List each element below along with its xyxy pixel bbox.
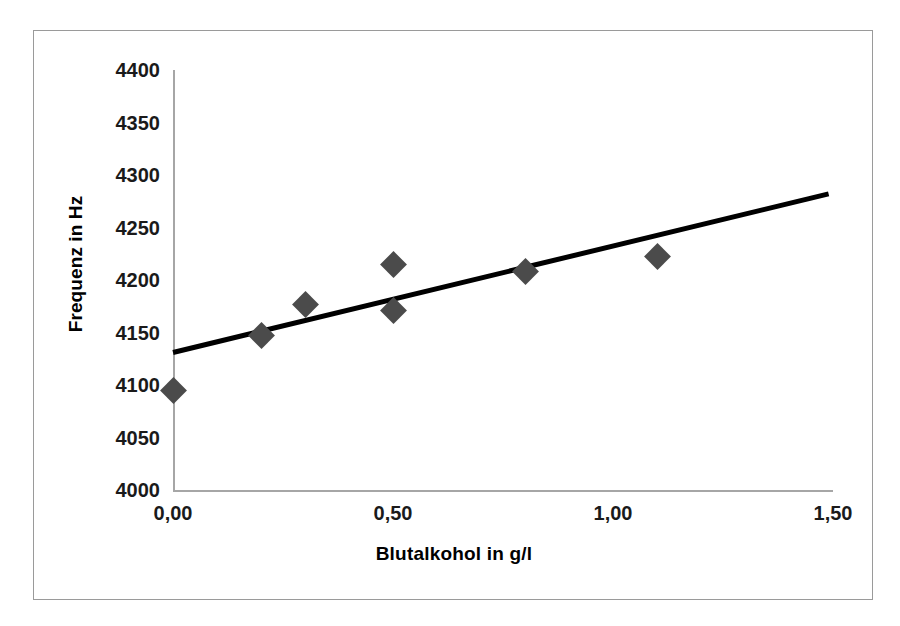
- y-tick-label: 4100: [116, 374, 161, 397]
- y-tick-label: 4400: [116, 59, 161, 82]
- y-tick-label: 4050: [116, 426, 161, 449]
- x-tick-label: 0,00: [154, 502, 193, 525]
- x-tick-label: 1,50: [814, 502, 853, 525]
- data-point-marker: [512, 258, 539, 285]
- y-axis-title: Frequenz in Hz: [65, 164, 87, 364]
- x-axis-line: [173, 490, 833, 492]
- plot-area: 400040504100415042004250430043504400 0,0…: [173, 70, 833, 490]
- x-tick-label: 0,50: [374, 502, 413, 525]
- x-axis-title: Blutalkohol in g/l: [34, 543, 874, 565]
- data-point-marker: [380, 251, 407, 278]
- y-tick-label: 4150: [116, 321, 161, 344]
- data-point-marker: [248, 322, 275, 349]
- x-tick-label: 1,00: [594, 502, 633, 525]
- data-point-marker: [380, 297, 407, 324]
- y-axis-line: [173, 70, 175, 490]
- data-point-marker: [160, 377, 187, 404]
- y-tick-label: 4000: [116, 479, 161, 502]
- y-tick-label: 4250: [116, 216, 161, 239]
- y-tick-label: 4300: [116, 164, 161, 187]
- y-tick-label: 4350: [116, 111, 161, 134]
- trendline: [173, 70, 833, 490]
- data-point-marker: [292, 291, 319, 318]
- data-point-marker: [644, 243, 671, 270]
- trendline-segment: [173, 194, 829, 353]
- chart-frame: Frequenz in Hz Blutalkohol in g/l 400040…: [33, 30, 873, 600]
- y-tick-label: 4200: [116, 269, 161, 292]
